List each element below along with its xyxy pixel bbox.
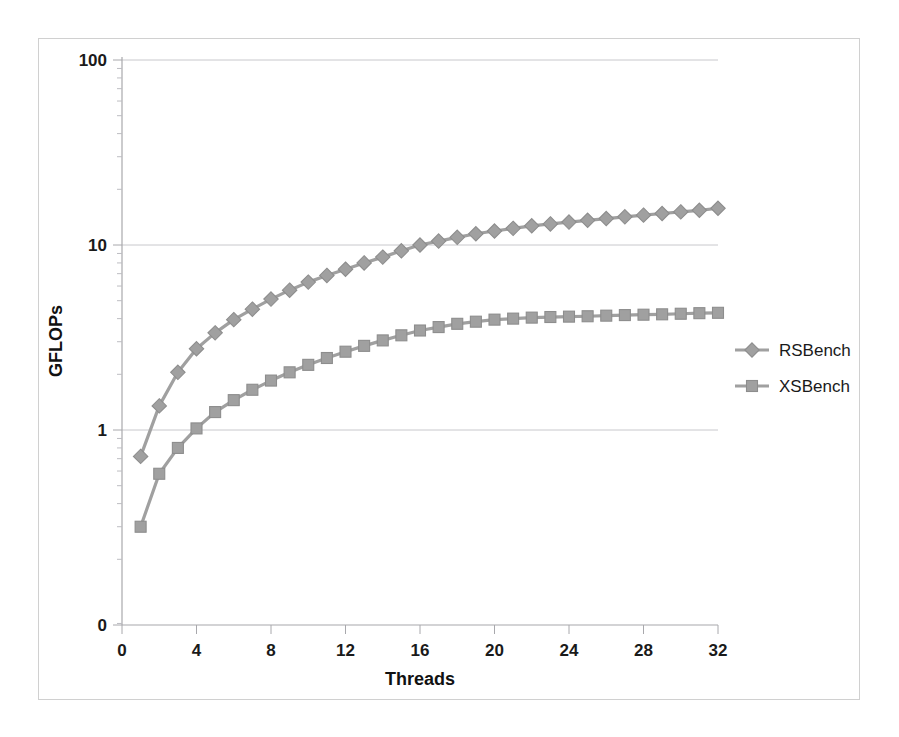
chart-svg: 0110100048121620242832ThreadsGFLOPsRSBen… bbox=[0, 0, 899, 737]
y-axis-title: GFLOPs bbox=[46, 305, 66, 377]
data-point-marker bbox=[228, 395, 239, 406]
x-axis-title: Threads bbox=[385, 669, 455, 689]
legend-label: RSBench bbox=[779, 341, 851, 360]
data-point-marker bbox=[415, 325, 426, 336]
data-point-marker bbox=[340, 346, 351, 357]
data-point-marker bbox=[582, 311, 593, 322]
data-point-marker bbox=[713, 307, 724, 318]
data-point-marker bbox=[618, 210, 632, 224]
chart-page: 0110100048121620242832ThreadsGFLOPsRSBen… bbox=[0, 0, 899, 737]
data-point-marker bbox=[133, 449, 147, 463]
data-point-marker bbox=[638, 309, 649, 320]
y-tick-label: 100 bbox=[79, 51, 107, 70]
data-point-marker bbox=[692, 203, 706, 217]
data-point-marker bbox=[601, 310, 612, 321]
series-rsbench bbox=[133, 201, 725, 464]
data-point-marker bbox=[636, 208, 650, 222]
data-point-marker bbox=[545, 312, 556, 323]
y-tick-label: 1 bbox=[98, 421, 107, 440]
legend-marker-icon bbox=[747, 381, 758, 392]
data-point-marker bbox=[675, 308, 686, 319]
data-point-marker bbox=[674, 205, 688, 219]
data-point-marker bbox=[396, 330, 407, 341]
data-point-marker bbox=[152, 399, 166, 413]
x-tick-label: 28 bbox=[634, 641, 653, 660]
data-point-marker bbox=[210, 407, 221, 418]
data-point-marker bbox=[191, 423, 202, 434]
data-point-marker bbox=[599, 211, 613, 225]
data-point-marker bbox=[489, 314, 500, 325]
data-point-marker bbox=[508, 313, 519, 324]
data-point-marker bbox=[135, 521, 146, 532]
data-point-marker bbox=[377, 335, 388, 346]
data-point-marker bbox=[431, 234, 445, 248]
x-tick-label: 0 bbox=[117, 641, 126, 660]
data-point-marker bbox=[394, 244, 408, 258]
data-point-marker bbox=[303, 359, 314, 370]
data-point-marker bbox=[694, 308, 705, 319]
data-point-marker bbox=[247, 384, 258, 395]
data-point-marker bbox=[266, 375, 277, 386]
data-point-marker bbox=[657, 309, 668, 320]
data-point-marker bbox=[376, 250, 390, 264]
data-point-marker bbox=[172, 442, 183, 453]
x-tick-label: 24 bbox=[560, 641, 579, 660]
data-point-marker bbox=[338, 262, 352, 276]
data-point-marker bbox=[357, 256, 371, 270]
data-point-marker bbox=[564, 311, 575, 322]
legend-marker-icon bbox=[745, 343, 759, 357]
data-point-marker bbox=[301, 275, 315, 289]
data-point-marker bbox=[245, 302, 259, 316]
data-point-marker bbox=[506, 221, 520, 235]
data-point-marker bbox=[452, 318, 463, 329]
data-point-marker bbox=[711, 201, 725, 215]
y-tick-label: 0 bbox=[98, 616, 107, 635]
data-point-marker bbox=[359, 340, 370, 351]
data-point-marker bbox=[320, 268, 334, 282]
data-point-marker bbox=[264, 292, 278, 306]
data-point-marker bbox=[284, 367, 295, 378]
legend-item-xsbench[interactable]: XSBench bbox=[735, 377, 850, 396]
data-point-marker bbox=[154, 468, 165, 479]
x-tick-label: 8 bbox=[266, 641, 275, 660]
data-point-marker bbox=[619, 310, 630, 321]
data-point-marker bbox=[469, 227, 483, 241]
data-point-marker bbox=[543, 217, 557, 231]
x-tick-label: 4 bbox=[192, 641, 202, 660]
data-point-marker bbox=[525, 219, 539, 233]
y-tick-label: 10 bbox=[88, 236, 107, 255]
x-tick-label: 12 bbox=[336, 641, 355, 660]
x-tick-label: 20 bbox=[485, 641, 504, 660]
data-point-marker bbox=[433, 322, 444, 333]
series-xsbench bbox=[135, 307, 723, 532]
legend-label: XSBench bbox=[779, 377, 850, 396]
data-point-marker bbox=[655, 206, 669, 220]
data-point-marker bbox=[282, 283, 296, 297]
data-point-marker bbox=[413, 238, 427, 252]
data-point-marker bbox=[487, 224, 501, 238]
chart-plot-area: 0110100048121620242832ThreadsGFLOPsRSBen… bbox=[0, 0, 899, 737]
data-point-marker bbox=[562, 215, 576, 229]
data-point-marker bbox=[526, 312, 537, 323]
data-point-marker bbox=[450, 230, 464, 244]
data-point-marker bbox=[321, 353, 332, 364]
x-tick-label: 32 bbox=[709, 641, 728, 660]
legend-item-rsbench[interactable]: RSBench bbox=[735, 341, 851, 360]
series-line bbox=[141, 313, 718, 527]
data-point-marker bbox=[470, 316, 481, 327]
data-point-marker bbox=[580, 213, 594, 227]
x-tick-label: 16 bbox=[411, 641, 430, 660]
